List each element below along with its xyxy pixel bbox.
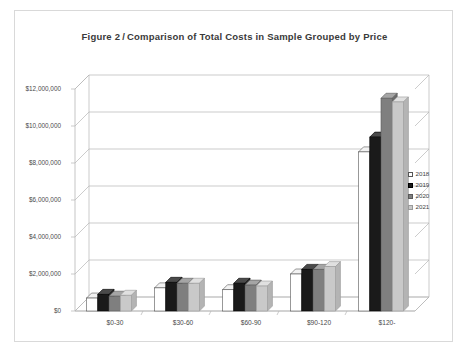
legend-item-2020[interactable]: 2020 xyxy=(408,191,452,202)
x-axis-tick-label: $30-60 xyxy=(173,319,194,326)
legend-label: 2021 xyxy=(416,204,430,210)
legend-item-2018[interactable]: 2018 xyxy=(408,169,452,180)
legend-swatch-icon xyxy=(408,205,413,210)
legend-label: 2020 xyxy=(416,193,430,199)
figure-title: Figure 2/Comparison of Total Costs in Sa… xyxy=(15,31,454,42)
chart-plot-area: $0$2,000,000$4,000,000$6,000,000$8,000,0… xyxy=(15,57,454,327)
figure-title-text: Comparison of Total Costs in Sample Grou… xyxy=(127,31,387,42)
legend-label: 2018 xyxy=(416,171,430,177)
legend-swatch-icon xyxy=(408,172,413,177)
x-axis-labels: $0-30$30-60$60-90$90-120$120- xyxy=(15,57,454,327)
legend-item-2021[interactable]: 2021 xyxy=(408,202,452,213)
legend-swatch-icon xyxy=(408,183,413,188)
figure-number: Figure 2 xyxy=(82,31,121,42)
legend-swatch-icon xyxy=(408,194,413,199)
legend-item-2019[interactable]: 2019 xyxy=(408,180,452,191)
x-axis-tick-label: $120- xyxy=(379,319,396,326)
chart-legend: 2018201920202021 xyxy=(408,169,452,213)
legend-label: 2019 xyxy=(416,182,430,188)
x-axis-tick-label: $60-90 xyxy=(241,319,262,326)
x-axis-tick-label: $0-30 xyxy=(107,319,124,326)
figure-frame: Figure 2/Comparison of Total Costs in Sa… xyxy=(14,10,453,342)
x-axis-tick-label: $90-120 xyxy=(307,319,331,326)
title-separator: / xyxy=(120,31,127,42)
